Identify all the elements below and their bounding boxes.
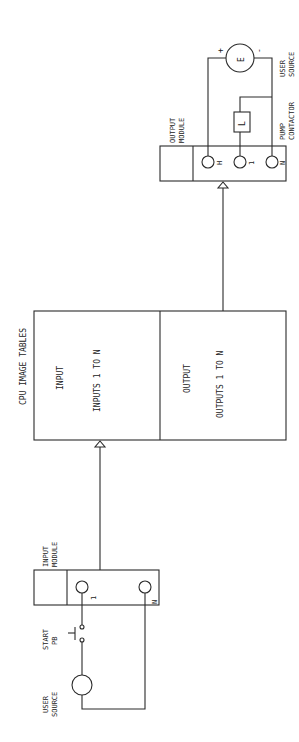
terminal-1	[234, 156, 246, 168]
output-module: OUTPUT MODULE H 1 N	[160, 117, 287, 181]
input-terminal-n-label: N	[151, 600, 159, 604]
plc-wiring-diagram: CPU IMAGE TABLES INPUT INPUTS 1 TO N OUT…	[0, 0, 299, 742]
load-label-2: CONTACTOR	[288, 101, 296, 140]
terminal-n	[139, 581, 151, 593]
wire-source-to-n	[254, 58, 272, 156]
load-label-1: PUMP	[279, 123, 287, 140]
terminal-1-label: 1	[248, 161, 256, 165]
terminal-h	[202, 156, 214, 168]
wire-h-to-source	[208, 58, 226, 156]
input-to-cpu-link	[95, 441, 105, 570]
cpu-to-output-link	[218, 182, 228, 311]
cpu-input-range: INPUTS 1 TO N	[93, 349, 102, 412]
terminal-h-label: H	[216, 161, 224, 165]
input-source-icon	[72, 675, 92, 695]
input-source-label-2: SOURCE	[51, 692, 59, 717]
output-module-label-2: MODULE	[178, 118, 186, 143]
input-circuit: START PB USER SOURCE	[42, 593, 145, 717]
input-module-label-2: MODULE	[51, 542, 59, 567]
cpu-image-tables: CPU IMAGE TABLES INPUT INPUTS 1 TO N OUT…	[19, 311, 286, 440]
cpu-title: CPU IMAGE TABLES	[19, 328, 28, 405]
output-circuit: E + - L USER SOURCE PUMP CONTACTOR	[208, 44, 296, 156]
arrow-up-icon	[218, 182, 228, 188]
load-symbol: L	[238, 121, 247, 126]
pb-contact-bottom	[80, 638, 84, 642]
source-symbol: E	[237, 57, 246, 62]
pb-contact-top	[80, 625, 84, 629]
cpu-input-heading: INPUT	[56, 366, 65, 390]
output-source-label-2: SOURCE	[288, 52, 296, 77]
wire-source-to-n	[82, 593, 145, 709]
output-module-label-1: OUTPUT	[169, 117, 177, 143]
source-minus: -	[255, 48, 264, 53]
output-source-label-1: USER	[279, 59, 287, 77]
pb-label-2: PB	[51, 637, 59, 645]
input-source-label-1: USER	[42, 695, 50, 713]
cpu-output-range: OUTPUTS 1 TO N	[216, 350, 225, 418]
cpu-output-heading: OUTPUT	[183, 364, 192, 393]
terminal-n	[266, 156, 278, 168]
input-module: INPUT MODULE 1 N	[34, 542, 159, 605]
arrow-up-icon	[95, 441, 105, 447]
pb-label-1: START	[42, 628, 50, 650]
input-module-label-1: INPUT	[42, 545, 50, 567]
input-terminal-1-label: 1	[90, 596, 98, 600]
source-plus: +	[216, 48, 225, 53]
terminal-1	[76, 581, 88, 593]
terminal-n-label: N	[279, 161, 287, 165]
wire-load-to-n	[240, 97, 272, 112]
